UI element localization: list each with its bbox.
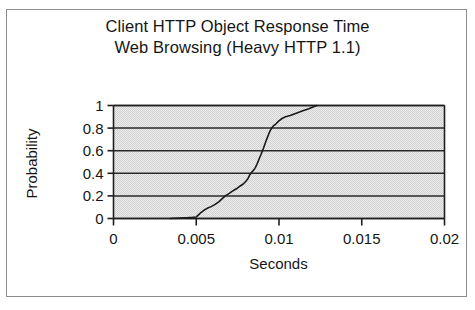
x-tick-label-4: 0.02	[430, 230, 459, 247]
y-tick-label-5: 1	[95, 97, 103, 114]
y-tick-label-3: 0.6	[83, 142, 104, 159]
y-axis-label: Probability	[21, 108, 41, 218]
y-tick-label-0: 0	[95, 210, 103, 227]
x-tick-label-3: 0.015	[343, 230, 381, 247]
x-axis-label: Seconds	[113, 255, 444, 272]
plot-background	[114, 106, 445, 219]
y-tick-label-1: 0.2	[83, 187, 104, 204]
x-tick-label-2: 0.01	[264, 230, 293, 247]
figure-container: Client HTTP Object Response Time Web Bro…	[0, 0, 475, 310]
x-tick-label-0: 0	[109, 230, 117, 247]
y-tick-label-4: 0.8	[83, 120, 104, 137]
y-tick-label-2: 0.4	[83, 165, 104, 182]
y-axis-label-text: Probability	[23, 128, 40, 198]
x-tick-label-1: 0.005	[177, 230, 215, 247]
